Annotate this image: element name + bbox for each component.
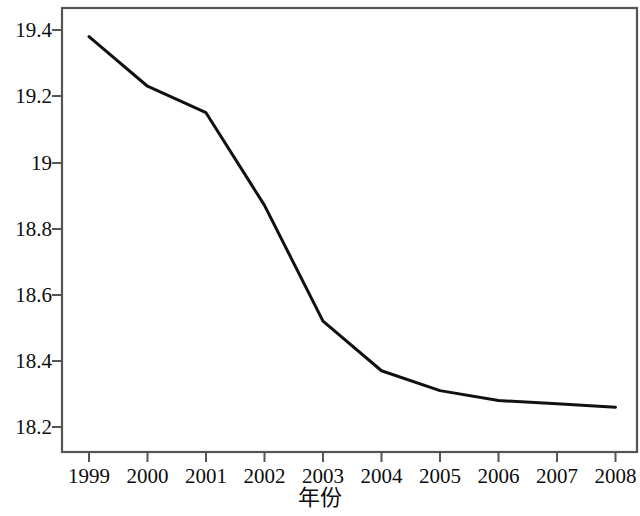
xtick-label-1999: 1999 xyxy=(59,466,119,487)
xtick-label-2001: 2001 xyxy=(176,466,236,487)
x-axis-title: 年份 xyxy=(0,486,640,510)
xtick-label-2005: 2005 xyxy=(410,466,470,487)
xtick-label-2007: 2007 xyxy=(527,466,587,487)
line-chart-plot xyxy=(0,0,640,516)
xtick-label-2003: 2003 xyxy=(293,466,353,487)
xtick-label-2008: 2008 xyxy=(586,466,640,487)
ytick-label-19-2: 19.2 xyxy=(15,86,52,107)
ytick-label-18-4: 18.4 xyxy=(15,351,52,372)
x-axis-ticks xyxy=(89,452,616,462)
ytick-label-19: 19 xyxy=(31,153,52,174)
plot-background xyxy=(62,8,637,452)
ytick-label-18-6: 18.6 xyxy=(15,285,52,306)
xtick-label-2002: 2002 xyxy=(235,466,295,487)
y-axis-ticks xyxy=(52,30,62,427)
ytick-label-19-4: 19.4 xyxy=(15,20,52,41)
xtick-label-2004: 2004 xyxy=(352,466,412,487)
xtick-label-2006: 2006 xyxy=(469,466,529,487)
ytick-label-18-2: 18.2 xyxy=(15,417,52,438)
xtick-label-2000: 2000 xyxy=(118,466,178,487)
chart-figure: 19.4 19.2 19 18.8 18.6 18.4 18.2 1999 20… xyxy=(0,0,640,516)
ytick-label-18-8: 18.8 xyxy=(15,219,52,240)
